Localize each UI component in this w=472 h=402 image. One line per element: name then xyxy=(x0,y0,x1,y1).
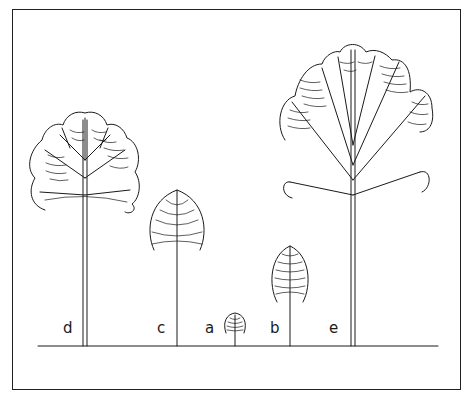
tree-architecture-diagram xyxy=(0,0,472,402)
label-a: a xyxy=(205,321,214,336)
tree-a xyxy=(225,313,246,346)
tree-d xyxy=(30,112,140,346)
label-c: c xyxy=(157,321,165,336)
label-b: b xyxy=(270,321,280,336)
label-e: e xyxy=(329,321,338,336)
tree-e xyxy=(280,45,433,347)
label-d: d xyxy=(63,321,73,336)
